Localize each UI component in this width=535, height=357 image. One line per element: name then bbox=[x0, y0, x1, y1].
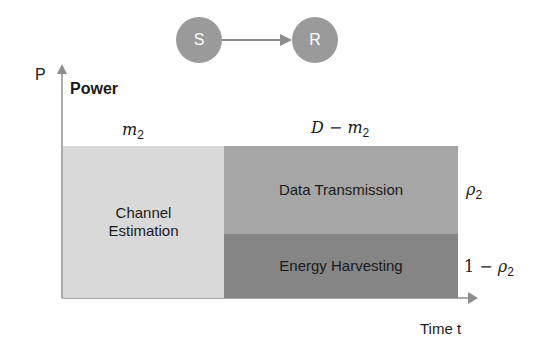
data-transmission-label: Data Transmission bbox=[279, 181, 403, 199]
ratio-rho2: ρ2 bbox=[466, 180, 482, 202]
data-transmission-block: Data Transmission bbox=[224, 146, 458, 234]
x-axis-label: Time t bbox=[420, 320, 461, 337]
interval-m2: m2 bbox=[122, 120, 144, 142]
channel-estimation-block: Channel Estimation bbox=[63, 146, 224, 298]
ratio-one-minus-rho2: 1 − ρ2 bbox=[464, 257, 514, 279]
interval-d-minus-m2: D − m2 bbox=[311, 118, 369, 140]
energy-harvesting-block: Energy Harvesting bbox=[224, 234, 458, 298]
energy-harvesting-label: Energy Harvesting bbox=[279, 257, 402, 275]
channel-estimation-label: Channel Estimation bbox=[99, 204, 189, 240]
y-axis-symbol: P bbox=[35, 66, 46, 84]
y-axis-label: Power bbox=[70, 80, 118, 98]
